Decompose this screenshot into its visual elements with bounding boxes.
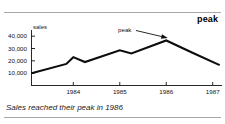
x-axis-tick-label: 1985 (113, 88, 127, 95)
y-axis-tick-label: 40,000 (8, 32, 27, 39)
x-axis-tick-label: 1984 (66, 88, 80, 95)
annotation-arrow-icon (136, 31, 168, 39)
slide-caption: Sales reached their peak in 1986 (6, 103, 123, 113)
chart-svg: sales 40,00030,00020,00010,000 198419851… (0, 24, 225, 100)
bottom-divider-rule (4, 117, 221, 118)
line-chart: sales 40,00030,00020,00010,000 198419851… (0, 24, 225, 100)
x-axis-ticks: 1984198519861987 (66, 82, 220, 95)
y-axis-tick-label: 10,000 (8, 69, 27, 76)
x-axis-tick-label: 1987 (206, 88, 220, 95)
annotation-label-peak: peak (118, 26, 132, 33)
data-series-line (32, 40, 220, 73)
y-axis-ticks: 40,00030,00020,00010,000 (8, 32, 35, 76)
x-axis-tick-label: 1986 (159, 88, 173, 95)
page-title: peak (197, 14, 218, 24)
top-divider-rule (4, 12, 221, 13)
y-axis-unit-label: sales (33, 24, 47, 30)
slide-page: peak sales 40,00030,00020,00010,000 1984… (0, 0, 225, 124)
y-axis-tick-label: 30,000 (8, 45, 27, 52)
y-axis-tick-label: 20,000 (8, 57, 27, 64)
